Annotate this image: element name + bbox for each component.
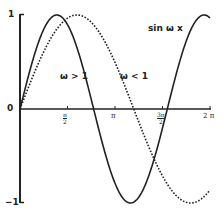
chart-title: sin ω x <box>148 24 183 33</box>
y-tick-label-minus-1: −1 <box>5 198 19 207</box>
annotation-omega-lt-1: ω < 1 <box>120 72 148 81</box>
x-tick-label-two-pi: 2 π <box>203 113 214 120</box>
sine-chart <box>0 0 224 215</box>
y-tick-label-0: 0 <box>7 104 13 113</box>
annotation-omega-gt-1: ω > 1 <box>60 72 88 81</box>
x-tick-label-three-half-pi: 3π2 <box>157 112 165 125</box>
y-tick-label-1: 1 <box>8 10 14 19</box>
x-tick-label-half-pi: π2 <box>63 112 67 125</box>
x-tick-label-pi: π <box>111 113 116 120</box>
